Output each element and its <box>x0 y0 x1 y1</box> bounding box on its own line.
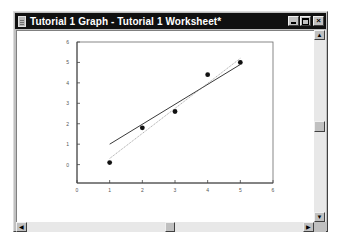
scatter-chart: 01234560123456 <box>0 0 341 239</box>
y-tick-label: 1 <box>66 141 69 147</box>
y-tick-label: 4 <box>66 80 69 86</box>
x-tick-label: 1 <box>108 187 111 193</box>
data-point <box>107 160 112 165</box>
data-point <box>140 125 145 130</box>
y-tick-label: 5 <box>66 59 69 65</box>
confidence-line <box>110 58 241 158</box>
x-tick-label: 6 <box>272 187 275 193</box>
y-tick-label: 2 <box>66 121 69 127</box>
x-tick-label: 2 <box>141 187 144 193</box>
x-tick-label: 0 <box>76 187 79 193</box>
y-tick-label: 3 <box>66 100 69 106</box>
y-tick-label: 6 <box>66 39 69 45</box>
regression-line <box>110 64 241 144</box>
x-tick-label: 4 <box>206 187 209 193</box>
data-point <box>205 72 210 77</box>
data-point <box>238 60 243 65</box>
x-tick-label: 3 <box>174 187 177 193</box>
x-tick-label: 5 <box>239 187 242 193</box>
y-tick-label: 0 <box>66 162 69 168</box>
